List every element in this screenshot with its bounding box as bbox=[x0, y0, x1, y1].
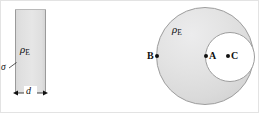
point-b-label: B bbox=[147, 51, 154, 61]
point-a-marker bbox=[204, 54, 208, 58]
point-c-marker bbox=[226, 54, 230, 58]
point-a-label: A bbox=[209, 51, 216, 61]
sigma-leader-line bbox=[9, 62, 17, 69]
slab-top-edge bbox=[15, 9, 46, 10]
slab-rho-subscript: E bbox=[25, 48, 30, 57]
surface-charge-label: σ bbox=[1, 63, 6, 73]
sphere-rho-subscript: E bbox=[177, 28, 182, 37]
physics-figure: ρE σ d ρE B A C bbox=[0, 0, 260, 114]
panel-sphere-with-cavity: ρE B A C bbox=[128, 0, 260, 114]
point-b-marker bbox=[155, 54, 159, 58]
thickness-label: d bbox=[26, 86, 31, 96]
slab-charge-density-label: ρE bbox=[20, 44, 30, 56]
sphere-charge-density-label: ρE bbox=[172, 24, 182, 36]
panel-charged-slab: ρE σ d bbox=[0, 0, 128, 114]
point-c-label: C bbox=[231, 51, 238, 61]
